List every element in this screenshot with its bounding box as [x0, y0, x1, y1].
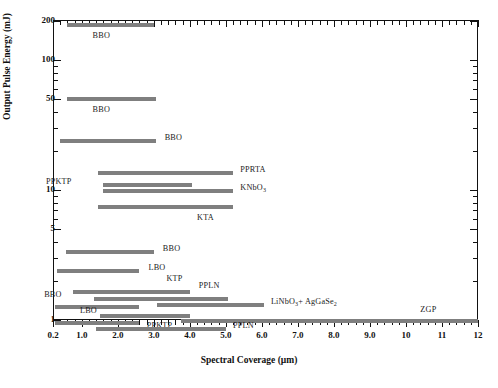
x-axis-tick-top [262, 20, 263, 27]
chart-bar [73, 290, 190, 294]
x-axis-tick-top [341, 20, 342, 25]
bar-label: BBO [44, 290, 61, 299]
y-axis-tick [53, 242, 58, 243]
x-axis-tick [139, 320, 140, 325]
chart-bar [103, 183, 191, 187]
y-axis-tick [53, 196, 58, 197]
bar-label: PPRTA [240, 165, 265, 174]
y-axis-tick-right [473, 66, 478, 67]
bar-label: PPLN [233, 321, 254, 330]
x-axis-tick-top [312, 20, 313, 25]
x-axis-tick-top [240, 20, 241, 25]
bar-label: LBO [148, 263, 165, 272]
x-axis-tick-top [334, 20, 335, 27]
y-axis-tick-right [473, 80, 478, 81]
y-axis-tick-right [473, 196, 478, 197]
bar-label: BBO [93, 31, 110, 40]
y-axis-tick [53, 66, 58, 67]
x-axis-tick-top [190, 20, 191, 27]
x-axis-tick-label: 9.0 [364, 330, 375, 340]
bar-label: KNbO3 [240, 183, 266, 192]
x-axis-tick-top [197, 20, 198, 25]
y-axis-tick-right [473, 210, 478, 211]
x-axis-tick-top [392, 20, 393, 25]
x-axis-tick-top [161, 20, 162, 25]
y-axis-tick-right [473, 151, 478, 152]
x-axis-tick-top [478, 20, 479, 27]
y-axis-tick [53, 281, 58, 282]
x-axis-tick-top [305, 20, 306, 25]
y-axis-tick [53, 151, 58, 152]
x-axis-tick-label: 12 [474, 330, 483, 340]
x-axis-tick-top [449, 20, 450, 25]
x-axis-tick-label: 0.2 [47, 330, 58, 340]
y-axis-tick [53, 203, 58, 204]
chart-bar [57, 269, 140, 273]
x-axis-tick-top [399, 20, 400, 25]
x-axis-tick-top [247, 20, 248, 25]
x-axis-tick-top [377, 20, 378, 25]
x-axis-tick-top [363, 20, 364, 25]
y-axis-tick-right [473, 219, 478, 220]
y-axis-tick-right [473, 89, 478, 90]
x-axis-tick-top [348, 20, 349, 25]
y-axis-tick [53, 73, 58, 74]
chart-bar [100, 314, 190, 318]
x-axis-tick-top [154, 20, 155, 27]
y-axis-tick-right [470, 99, 478, 100]
y-axis-tick-right [473, 203, 478, 204]
bar-label: PPLN [199, 281, 220, 290]
x-axis-tick-top [298, 20, 299, 27]
x-axis-tick-top [233, 20, 234, 25]
x-axis-tick-top [442, 20, 443, 27]
x-axis-tick-label: 1.0 [76, 330, 87, 340]
x-axis-tick-label: 11 [438, 330, 447, 340]
bar-label: KTP [166, 274, 182, 283]
y-axis-tick-label: 50 [46, 93, 55, 103]
y-axis-tick [53, 210, 58, 211]
x-axis-tick [175, 320, 176, 325]
y-axis-tick [53, 89, 58, 90]
y-axis-tick-right [470, 190, 478, 191]
bar-label: BBO [165, 133, 182, 142]
y-axis-tick [53, 80, 58, 81]
chart-bar [157, 303, 263, 307]
x-axis-tick-top [327, 20, 328, 25]
bar-label: LiNbO3+ AgGaSe2 [271, 297, 337, 306]
x-axis-tick-top [406, 20, 407, 27]
x-axis-tick-top [183, 20, 184, 25]
x-axis-tick-top [175, 20, 176, 25]
x-axis-tick-top [435, 20, 436, 25]
x-axis-tick-top [255, 20, 256, 25]
x-axis-tick-top [420, 20, 421, 25]
chart-bar [66, 250, 154, 254]
x-axis-tick-top [204, 20, 205, 25]
x-axis-tick-top [284, 20, 285, 25]
x-axis-tick-top [320, 20, 321, 25]
chart-bar [103, 189, 233, 193]
chart-bar [55, 321, 140, 325]
chart-figure: Output Pulse Energy (mJ) 0.21.02.03.04.0… [0, 0, 498, 388]
y-axis-title: Output Pulse Energy (mJ) [2, 0, 12, 120]
y-axis-tick-label: 200 [42, 15, 56, 25]
x-axis-tick-label: 2.0 [112, 330, 123, 340]
chart-bar [55, 305, 140, 309]
y-axis-tick-label: 5 [51, 223, 56, 233]
x-axis-tick-top [384, 20, 385, 25]
x-axis-tick-top [226, 20, 227, 27]
y-axis-tick-right [470, 60, 478, 61]
x-axis-tick-label: 5.0 [220, 330, 231, 340]
y-axis-tick-right [473, 128, 478, 129]
x-axis-tick-top [211, 20, 212, 25]
chart-bar [67, 23, 153, 27]
y-axis-tick-right [473, 258, 478, 259]
y-axis-tick-right [470, 229, 478, 230]
x-axis-tick-top [291, 20, 292, 25]
y-axis-title-container: Output Pulse Energy (mJ) [0, 0, 20, 388]
chart-bar [60, 139, 155, 143]
chart-bar [94, 297, 227, 301]
y-axis-tick-label: 100 [42, 54, 56, 64]
y-axis-tick-right [473, 281, 478, 282]
x-axis-tick-top [356, 20, 357, 25]
y-axis-tick-right [473, 73, 478, 74]
